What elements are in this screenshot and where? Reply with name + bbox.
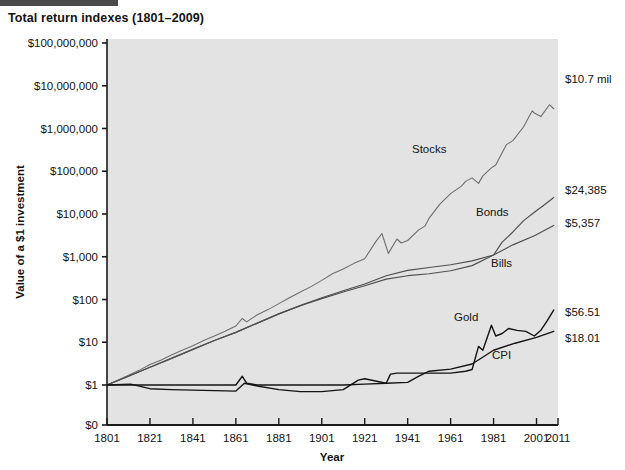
end-value-label: $56.51 <box>565 306 600 318</box>
x-axis-tick-labels: 1801182118411861188119011921194119611981… <box>94 432 570 444</box>
end-value-label: $5,357 <box>565 217 600 229</box>
y-axis-tick-label: $100,000 <box>50 165 98 177</box>
x-axis-tick-label: 2011 <box>546 432 571 444</box>
y-axis-tick-label: $100,000,000 <box>28 37 98 49</box>
y-axis-tick-label: $1,000,000 <box>40 123 98 135</box>
end-value-label: $10.7 mil <box>565 73 612 85</box>
x-axis-title: Year <box>320 451 345 463</box>
figure-container: Total return indexes (1801–2009) StocksB… <box>0 0 625 470</box>
x-axis-tick-label: 1841 <box>180 432 206 444</box>
end-value-labels: $10.7 mil$24,385$5,357$56.51$18.01 <box>565 73 612 344</box>
end-value-label: $18.01 <box>565 332 600 344</box>
x-axis-tick-label: 1821 <box>137 432 163 444</box>
x-axis-tick-label: 1801 <box>94 432 120 444</box>
series-label-cpi: CPI <box>492 349 511 361</box>
y-axis-tick-label: $100 <box>72 294 98 306</box>
x-axis-tick-label: 1921 <box>352 432 378 444</box>
y-axis-title: Value of a $1 investment <box>14 165 26 299</box>
x-axis-tick-label: 1861 <box>223 432 249 444</box>
end-value-label: $24,385 <box>565 184 607 196</box>
series-label-bills: Bills <box>491 257 512 269</box>
y-axis-tick-label: $10,000 <box>56 208 98 220</box>
y-axis-tick-label: $1,000 <box>63 251 98 263</box>
x-axis-tick-label: 1961 <box>438 432 464 444</box>
series-label-stocks: Stocks <box>412 143 447 155</box>
y-axis-tick-label: $10 <box>79 336 98 348</box>
x-axis-tick-label: 1901 <box>309 432 335 444</box>
y-axis-tick-label: $1 <box>85 379 98 391</box>
series-label-bonds: Bonds <box>476 206 509 218</box>
x-axis-tick-label: 1881 <box>266 432 292 444</box>
y-axis-tick-label: $0 <box>85 419 98 431</box>
plot-background <box>107 39 558 425</box>
series-label-gold: Gold <box>454 311 478 323</box>
y-axis-tick-labels: $0$1$10$100$1,000$10,000$100,000$1,000,0… <box>28 37 98 431</box>
x-axis-tick-label: 1981 <box>481 432 507 444</box>
y-axis-tick-label: $10,000,000 <box>34 80 98 92</box>
x-axis-tick-label: 1941 <box>395 432 421 444</box>
chart-canvas: StocksBondsBillsGoldCPI $10.7 mil$24,385… <box>0 0 625 470</box>
